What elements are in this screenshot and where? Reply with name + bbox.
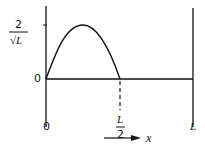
- y-zero-label: 0: [34, 73, 41, 84]
- wavefunction-plot: [0, 0, 205, 149]
- x-arrow-head: [131, 135, 141, 141]
- x-zero-label: 0: [43, 121, 50, 132]
- x-axis-variable: x: [146, 132, 151, 144]
- x-half-denominator: 2: [117, 129, 124, 140]
- y-max-denominator: √L: [10, 35, 22, 46]
- y-max-numerator: 2: [15, 19, 22, 30]
- x-end-label: L: [190, 121, 196, 132]
- half-sine-curve: [46, 25, 120, 79]
- x-half-numerator: L: [117, 114, 123, 125]
